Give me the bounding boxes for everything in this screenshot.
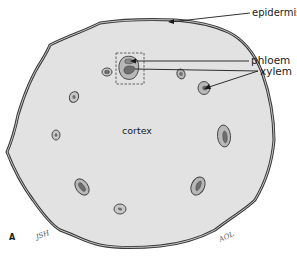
phloem-label: phloem	[251, 55, 290, 66]
epidermis-leader	[170, 13, 250, 22]
vascular-bundle	[52, 130, 60, 140]
figure-label: A	[9, 234, 15, 242]
xylem-label: xylem	[260, 66, 292, 77]
vascular-bundle	[114, 204, 126, 214]
stem-cross-section-diagram: epidermis phloem xylem cortex A JSH AOL	[0, 0, 297, 256]
epidermis-label: epidermis	[252, 8, 297, 18]
vascular-bundle	[102, 68, 112, 76]
cortex-label: cortex	[122, 126, 152, 136]
